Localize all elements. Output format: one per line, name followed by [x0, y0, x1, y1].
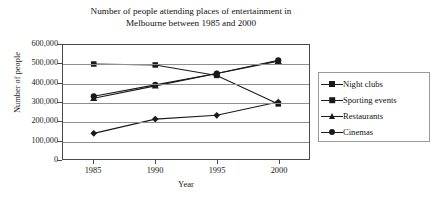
gridline	[63, 64, 309, 65]
legend-item-night-clubs[interactable]: Night clubs	[321, 76, 429, 92]
y-tick-label: 400,000	[14, 79, 58, 87]
y-tick-label: 100,000	[14, 137, 58, 145]
chart-legend: Night clubsSporting eventsRestaurantsCin…	[318, 72, 430, 142]
legend-label: Night clubs	[343, 79, 383, 89]
y-tick-mark	[57, 121, 62, 122]
legend-item-restaurants[interactable]: Restaurants	[321, 108, 429, 124]
x-tick-mark	[217, 160, 218, 164]
legend-marker-square-icon	[321, 93, 343, 107]
y-tick-label: 300,000	[14, 98, 58, 106]
gridline	[63, 142, 309, 143]
legend-marker-triangle-icon	[321, 109, 343, 123]
gridline	[63, 122, 309, 123]
y-tick-label: 0	[14, 156, 58, 164]
x-tick-label: 1995	[194, 166, 240, 175]
legend-item-sporting-events[interactable]: Sporting events	[321, 92, 429, 108]
legend-label: Cinemas	[343, 127, 373, 137]
y-tick-mark	[57, 44, 62, 45]
gridline	[63, 103, 309, 104]
legend-marker-diamond-icon	[321, 77, 343, 91]
data-point-marker	[213, 112, 220, 119]
data-point-marker	[214, 70, 220, 76]
chart-title: Number of people attending places of ent…	[46, 6, 336, 29]
gridline	[63, 84, 309, 85]
x-tick-mark	[155, 160, 156, 164]
y-tick-mark	[57, 83, 62, 84]
y-tick-mark	[57, 63, 62, 64]
data-point-marker	[275, 57, 281, 63]
x-tick-label: 2000	[256, 166, 302, 175]
plot-area	[62, 44, 310, 160]
y-tick-mark	[57, 102, 62, 103]
legend-marker-circle-icon	[321, 125, 343, 139]
legend-item-cinemas[interactable]: Cinemas	[321, 124, 429, 140]
y-tick-mark	[57, 160, 62, 161]
data-point-marker	[91, 93, 97, 99]
y-tick-label: 600,000	[14, 40, 58, 48]
x-tick-label: 1990	[132, 166, 178, 175]
x-axis-title: Year	[62, 180, 310, 189]
series-line	[94, 102, 279, 133]
legend-label: Sporting events	[343, 95, 397, 105]
y-tick-label: 200,000	[14, 117, 58, 125]
x-tick-mark	[279, 160, 280, 164]
y-tick-mark	[57, 141, 62, 142]
series-night-clubs	[90, 99, 281, 137]
y-tick-label: 500,000	[14, 59, 58, 67]
x-tick-mark	[93, 160, 94, 164]
legend-label: Restaurants	[343, 111, 383, 121]
line-chart: Number of people attending places of ent…	[0, 0, 432, 200]
data-point-marker	[90, 130, 97, 137]
x-tick-label: 1985	[70, 166, 116, 175]
y-axis-tick-labels: 600,000500,000400,000300,000200,000100,0…	[14, 44, 58, 160]
